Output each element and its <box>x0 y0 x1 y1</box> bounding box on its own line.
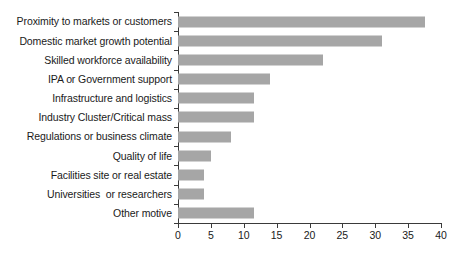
bar-row: Quality of life <box>0 146 462 165</box>
value-tick-label: 40 <box>435 230 447 241</box>
value-tick <box>408 223 409 228</box>
category-label: Facilities site or real estate <box>0 170 178 181</box>
value-tick-label: 20 <box>304 230 316 241</box>
bar-track <box>178 70 462 89</box>
value-tick <box>342 223 343 228</box>
value-tick <box>310 223 311 228</box>
value-tick-label: 25 <box>337 230 349 241</box>
bar <box>178 16 425 27</box>
bar-row: Skilled workforce availability <box>0 50 462 69</box>
bar-rows: Proximity to markets or customersDomesti… <box>0 12 462 223</box>
bar <box>178 131 231 142</box>
category-label: Regulations or business climate <box>0 131 178 142</box>
value-tick <box>178 223 179 228</box>
category-tick <box>174 146 178 147</box>
bar <box>178 189 204 200</box>
category-label: Universities or researchers <box>0 189 178 200</box>
value-tick-label: 10 <box>238 230 250 241</box>
category-label: IPA or Government support <box>0 74 178 85</box>
bar-row: Other motive <box>0 204 462 223</box>
bar-track <box>178 31 462 50</box>
bar <box>178 35 382 46</box>
bar-track <box>178 165 462 184</box>
category-label: Skilled workforce availability <box>0 55 178 66</box>
category-tick <box>174 165 178 166</box>
value-tick <box>375 223 376 228</box>
bar <box>178 150 211 161</box>
bar <box>178 112 254 123</box>
category-tick <box>174 185 178 186</box>
bar-row: Universities or researchers <box>0 185 462 204</box>
horizontal-bar-chart: Proximity to markets or customersDomesti… <box>0 0 462 253</box>
value-tick-label: 35 <box>402 230 414 241</box>
value-tick <box>244 223 245 228</box>
bar-row: Facilities site or real estate <box>0 165 462 184</box>
bar-track <box>178 89 462 108</box>
bar <box>178 74 270 85</box>
bar-row: Domestic market growth potential <box>0 31 462 50</box>
category-tick <box>174 89 178 90</box>
category-label: Other motive <box>0 208 178 219</box>
bar <box>178 169 204 180</box>
bar <box>178 93 254 104</box>
category-label: Infrastructure and logistics <box>0 93 178 104</box>
bar-track <box>178 146 462 165</box>
category-tick <box>174 127 178 128</box>
bar-track <box>178 12 462 31</box>
bar-row: Industry Cluster/Critical mass <box>0 108 462 127</box>
category-tick <box>174 108 178 109</box>
value-tick-label: 30 <box>369 230 381 241</box>
value-tick-label: 5 <box>208 230 214 241</box>
category-tick <box>174 12 178 13</box>
category-label: Industry Cluster/Critical mass <box>0 112 178 123</box>
bar-row: Proximity to markets or customers <box>0 12 462 31</box>
bar-row: Regulations or business climate <box>0 127 462 146</box>
category-label: Proximity to markets or customers <box>0 16 178 27</box>
category-tick <box>174 204 178 205</box>
value-tick <box>211 223 212 228</box>
category-tick <box>174 31 178 32</box>
bar-track <box>178 204 462 223</box>
value-tick-label: 15 <box>271 230 283 241</box>
bar-track <box>178 108 462 127</box>
value-tick-label: 0 <box>175 230 181 241</box>
bar-row: IPA or Government support <box>0 70 462 89</box>
bar <box>178 54 323 65</box>
category-tick <box>174 70 178 71</box>
value-tick <box>277 223 278 228</box>
bar-track <box>178 185 462 204</box>
bar-row: Infrastructure and logistics <box>0 89 462 108</box>
category-label: Quality of life <box>0 151 178 162</box>
category-tick <box>174 50 178 51</box>
bar-track <box>178 50 462 69</box>
category-label: Domestic market growth potential <box>0 36 178 47</box>
bar <box>178 208 254 219</box>
value-tick <box>441 223 442 228</box>
bar-track <box>178 127 462 146</box>
